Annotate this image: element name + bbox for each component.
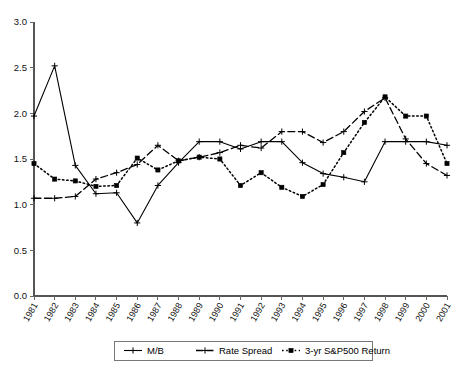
data-point-marker (300, 194, 304, 198)
x-axis-tick-label: 1984 (83, 301, 102, 323)
data-point-marker (238, 183, 242, 187)
x-axis-tick-label: 1982 (42, 301, 61, 323)
y-axis-tick-label: 1.5 (14, 153, 27, 164)
x-axis-tick-label: 1988 (166, 301, 185, 323)
data-point-marker (342, 151, 346, 155)
legend-label: 3-yr S&P500 Return (305, 345, 390, 356)
x-axis-tick-label: 2001 (434, 301, 453, 323)
x-axis-tick-label: 1999 (393, 301, 412, 323)
data-point-marker (176, 159, 180, 163)
y-axis: 0.00.51.01.52.02.53.0 (14, 16, 34, 301)
x-axis: 1981198219831984198519861987198819891990… (21, 296, 453, 323)
data-point-marker (94, 184, 98, 188)
x-axis-tick-label: 1995 (310, 301, 329, 323)
x-axis-tick-label: 1997 (351, 301, 370, 323)
x-axis-tick-label: 1996 (331, 301, 350, 323)
legend-label: M/B (147, 345, 164, 356)
y-axis-tick-label: 3.0 (14, 16, 27, 27)
chart-legend: M/BRate Spread3-yr S&P500 Return (114, 341, 390, 360)
x-axis-tick-label: 1991 (228, 301, 247, 323)
data-point-marker (445, 161, 449, 165)
data-point-marker (289, 348, 293, 352)
x-axis-tick-label: 1986 (124, 301, 143, 323)
data-point-marker (362, 120, 366, 124)
y-axis-tick-label: 1.0 (14, 199, 27, 210)
data-point-marker (259, 171, 263, 175)
data-point-marker (115, 183, 119, 187)
x-axis-tick-label: 1990 (207, 301, 226, 323)
x-axis-tick-label: 2000 (413, 301, 432, 323)
y-axis-tick-label: 0.0 (14, 290, 27, 301)
data-point-marker (197, 155, 201, 159)
data-point-marker (53, 177, 57, 181)
x-axis-tick-label: 1987 (145, 301, 164, 323)
y-axis-tick-label: 2.5 (14, 62, 27, 73)
x-axis-tick-label: 1994 (290, 301, 309, 323)
line-chart: 0.00.51.01.52.02.53.0 198119821983198419… (0, 0, 472, 366)
x-axis-tick-label: 1989 (186, 301, 205, 323)
data-point-marker (321, 182, 325, 186)
x-axis-tick-label: 1981 (21, 301, 40, 323)
data-point-marker (404, 114, 408, 118)
y-axis-tick-label: 2.0 (14, 108, 27, 119)
legend-label: Rate Spread (219, 345, 272, 356)
data-point-marker (218, 157, 222, 161)
data-point-marker (383, 95, 387, 99)
x-axis-tick-label: 1983 (62, 301, 81, 323)
chart-container: 0.00.51.01.52.02.53.0 198119821983198419… (0, 0, 472, 366)
x-axis-tick-label: 1992 (248, 301, 267, 323)
data-point-marker (424, 114, 428, 118)
data-point-marker (156, 168, 160, 172)
data-point-marker (73, 179, 77, 183)
x-axis-tick-label: 1998 (372, 301, 391, 323)
y-axis-tick-label: 0.5 (14, 245, 27, 256)
x-axis-tick-label: 1985 (104, 301, 123, 323)
data-point-marker (32, 161, 36, 165)
x-axis-tick-label: 1993 (269, 301, 288, 323)
data-series-group (31, 63, 450, 226)
data-point-marker (135, 156, 139, 160)
data-point-marker (280, 185, 284, 189)
